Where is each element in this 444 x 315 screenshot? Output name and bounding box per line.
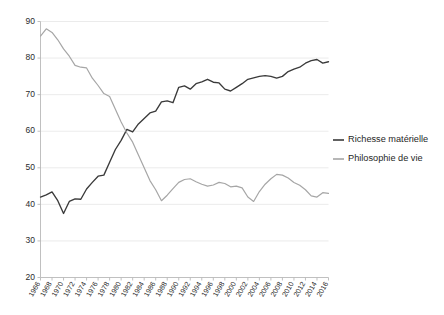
y-tick-label: 50: [26, 162, 36, 172]
line-chart: 2030405060708090 19661968197019721974197…: [0, 0, 444, 315]
y-tick-labels: 2030405060708090: [26, 16, 36, 282]
series-group: [41, 29, 329, 214]
y-tick-label: 90: [26, 16, 36, 26]
y-axis: [38, 22, 41, 278]
y-tick-label: 60: [26, 125, 36, 135]
y-tick-label: 80: [26, 52, 36, 62]
legend-label: Philosophie de vie: [348, 153, 423, 163]
chart-container: 2030405060708090 19661968197019721974197…: [0, 0, 444, 315]
series-line-richesse-materielle: [41, 60, 329, 214]
legend: Richesse matériellePhilosophie de vie: [333, 134, 428, 163]
series-line-philosophie-de-vie: [41, 29, 329, 202]
y-tick-label: 70: [26, 89, 36, 99]
legend-label: Richesse matérielle: [348, 134, 428, 144]
x-tick-label: 2016: [314, 280, 330, 298]
x-axis: [41, 278, 329, 281]
x-tick-labels: 1966196819701972197419761978198019821984…: [26, 280, 330, 298]
y-tick-label: 40: [26, 199, 36, 209]
gridlines-group: [41, 22, 329, 241]
y-tick-label: 30: [26, 235, 36, 245]
